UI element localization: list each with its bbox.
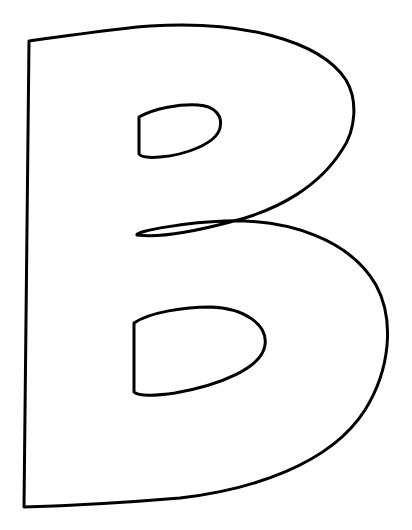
- upper-counter-path: [139, 105, 221, 158]
- outer-outline-path: [24, 25, 388, 507]
- coloring-page-canvas: B: [0, 0, 412, 530]
- lower-counter-path: [134, 307, 265, 395]
- letter-b-outline-icon: [0, 0, 412, 530]
